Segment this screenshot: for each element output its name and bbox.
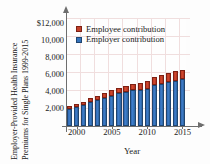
bar-segment-employee [145,81,150,89]
bar-segment-employee [180,70,185,80]
bar-segment-employee [123,86,128,92]
bar-column [145,81,150,126]
bar-column [159,75,164,126]
bar-segment-employer [67,109,72,126]
y-tick-label: 6,000 [22,71,64,79]
bar-column [88,98,93,126]
bar-segment-employee [152,77,157,85]
bar-segment-employee [81,102,86,105]
x-tick-label: 2005 [103,128,120,137]
blue-square-swatch-icon [76,37,82,43]
bar-segment-employee [88,98,93,102]
bar-segment-employer [81,105,86,126]
bar-column [123,86,128,126]
bar-column [81,102,86,126]
bar-segment-employee [102,93,107,98]
bar-segment-employer [123,92,128,126]
bar-segment-employer [74,107,79,126]
bar-column [180,70,185,126]
bar-segment-employee [95,96,100,101]
bar-column [74,104,79,126]
y-axis-arrow-icon [63,6,69,13]
bar-column [152,77,157,126]
bar-column [130,84,135,126]
bar-segment-employer [138,90,143,126]
gridline-horizontal [66,54,190,55]
legend-label: Employee contribution [86,25,165,34]
bar-segment-employee [159,75,164,84]
y-tick-label: 4,000 [22,88,64,96]
bar-segment-employer [102,98,107,126]
chart-legend: Employee contribution Employer contribut… [76,24,165,45]
bar-column [102,93,107,126]
legend-label: Employer contribution [86,35,164,44]
bar-segment-employee [116,88,121,94]
bar-segment-employee [173,71,178,81]
bar-column [138,83,143,126]
x-axis-arrow-icon [198,122,205,128]
bar-column [166,73,171,126]
bar-segment-employer [145,89,150,126]
bar-segment-employer [166,82,171,126]
bar-segment-employer [152,85,157,126]
bar-segment-employee [166,73,171,82]
gridline-horizontal [66,18,190,19]
y-tick-label: 10,000 [22,37,64,45]
y-axis-title-line-1: Employer-Provided Health Insurance [10,43,19,160]
legend-item-employee: Employee contribution [76,24,165,35]
bar-segment-employer [130,90,135,126]
bar-segment-employer [109,96,114,126]
chart-figure: Employer-Provided Health Insurance Premi… [0,0,210,164]
x-tick-label: 2015 [174,128,191,137]
gridline-horizontal [66,72,190,73]
x-axis-title: Year [124,146,140,156]
bar-segment-employee [130,84,135,90]
bar-column [116,88,121,126]
x-tick-label: 2010 [139,128,156,137]
bar-segment-employee [109,90,114,95]
bar-segment-employee [138,83,143,90]
bar-column [95,96,100,126]
bar-segment-employee [74,104,79,107]
x-tick-label: 2000 [68,128,85,137]
bar-segment-employer [88,102,93,126]
bar-segment-employee [67,106,72,109]
bar-segment-employer [159,84,164,126]
red-square-swatch-icon [76,26,82,32]
y-axis-tick-labels: $12,000 10,000 8,000 6,000 4,000 2,000 [20,0,64,164]
y-tick-label: 2,000 [22,105,64,113]
bar-segment-employer [95,100,100,126]
bar-segment-employer [116,93,121,126]
y-axis-line [66,12,67,132]
bar-column [109,90,114,126]
y-tick-label: $12,000 [22,20,64,28]
legend-item-employer: Employer contribution [76,35,165,46]
bar-segment-employer [180,79,185,126]
y-tick-label: 8,000 [22,54,64,62]
bar-segment-employer [173,81,178,126]
bar-column [67,106,72,126]
bar-column [173,71,178,126]
